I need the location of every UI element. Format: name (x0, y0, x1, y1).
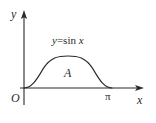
y-axis (21, 10, 27, 105)
x-axis-label: x (137, 94, 142, 106)
y-axis-label: y (11, 8, 16, 20)
sine-curve-figure: y x O π y=sin x A (0, 0, 156, 123)
figure-canvas (0, 0, 156, 123)
equation-variable: x (79, 34, 84, 46)
origin-label: O (11, 92, 20, 104)
region-area-label: A (64, 67, 71, 79)
equation-function: sin (63, 34, 76, 46)
curve-equation-label: y=sin x (52, 35, 84, 46)
x-axis (20, 85, 144, 91)
x-tick-label-pi: π (105, 91, 111, 102)
